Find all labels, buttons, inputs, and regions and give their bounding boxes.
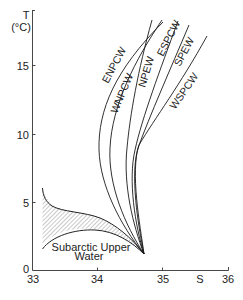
label-wspcw: WSPCW (167, 70, 201, 111)
x-axis: 33 34 35 S 36 (27, 267, 234, 285)
ts-diagram: T (°C) 15 10 5 0 33 34 35 S 36 Subarctic… (0, 0, 243, 300)
y-tick-5: 5 (23, 197, 29, 209)
y-tick-15: 15 (17, 60, 29, 72)
y-axis-title-line1: T (23, 9, 30, 21)
y-axis: T (°C) 15 10 5 0 (11, 9, 35, 275)
region-label-line2: Water (75, 250, 104, 262)
y-tick-10: 10 (17, 129, 29, 141)
y-axis-title-line2: (°C) (11, 21, 31, 33)
label-npew: NPEW (135, 55, 156, 89)
label-spew: SPEW (171, 35, 196, 68)
x-tick-34: 34 (91, 273, 103, 285)
x-tick-33: 33 (27, 273, 39, 285)
x-axis-title: S (196, 273, 203, 285)
curve-enpcw (99, 22, 163, 254)
x-tick-36: 36 (222, 273, 234, 285)
x-tick-35: 35 (157, 273, 169, 285)
